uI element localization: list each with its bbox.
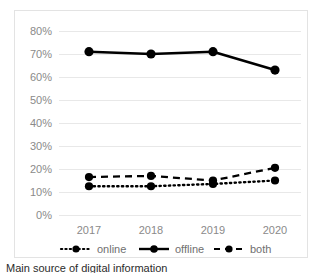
series-offline [84,47,279,75]
y-tick-label: 60% [30,71,52,83]
series-online [85,176,279,190]
y-tick-label: 40% [30,117,52,129]
data-point-both-2019[interactable] [209,176,217,184]
data-point-offline-2020[interactable] [270,66,279,75]
legend-label-both: both [250,243,271,255]
legend-item-both[interactable]: both [214,243,271,255]
y-tick-label: 50% [30,94,52,106]
data-point-offline-2017[interactable] [84,47,93,56]
x-tick-label: 2020 [263,224,287,236]
chart-frame: 80% 70% 60% 50% 40% 30% 20% 10% 0% 2017 … [14,10,308,258]
y-tick-label: 30% [30,140,52,152]
legend-item-offline[interactable]: offline [139,243,204,255]
series-line-both [89,168,275,181]
data-point-online-2017[interactable] [85,182,93,190]
x-tick-label: 2018 [139,224,163,236]
data-point-online-2018[interactable] [147,182,155,190]
chart-legend: online offline both [61,243,271,255]
y-axis-ticks: 80% 70% 60% 50% 40% 30% 20% 10% 0% [30,25,52,221]
data-point-offline-2018[interactable] [146,49,155,58]
x-tick-label: 2019 [201,224,225,236]
x-tick-label: 2017 [77,224,101,236]
data-point-offline-2019[interactable] [208,47,217,56]
data-point-both-2017[interactable] [85,173,93,181]
figure-caption: Main source of digital information [6,262,324,273]
y-tick-label: 10% [30,186,52,198]
legend-item-online[interactable]: online [61,243,126,255]
y-tick-label: 70% [30,48,52,60]
data-point-both-2018[interactable] [147,172,155,180]
legend-label-online: online [97,243,126,255]
y-tick-label: 0% [36,209,52,221]
y-tick-label: 20% [30,163,52,175]
legend-marker-offline [150,245,158,253]
data-point-online-2020[interactable] [271,176,279,184]
legend-marker-online [72,245,79,252]
series-line-online [89,181,275,187]
y-tick-label: 80% [30,25,52,37]
legend-label-offline: offline [175,243,204,255]
x-axis-ticks: 2017 2018 2019 2020 [77,224,287,236]
data-point-both-2020[interactable] [271,164,279,172]
legend-marker-both [225,245,232,252]
figure-container: 80% 70% 60% 50% 40% 30% 20% 10% 0% 2017 … [0,0,324,273]
line-chart-plot: 80% 70% 60% 50% 40% 30% 20% 10% 0% 2017 … [15,11,307,257]
